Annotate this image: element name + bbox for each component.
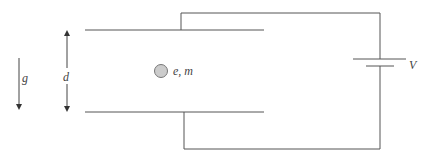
particle-label: e, m <box>173 64 193 78</box>
bottom-wire <box>184 66 380 149</box>
capacitor-diagram: V d g e, m <box>0 0 428 157</box>
separation-label: d <box>63 70 70 84</box>
gravity-label: g <box>22 71 28 85</box>
top-wire <box>181 13 380 59</box>
particle <box>155 65 168 78</box>
voltage-label: V <box>409 58 418 72</box>
